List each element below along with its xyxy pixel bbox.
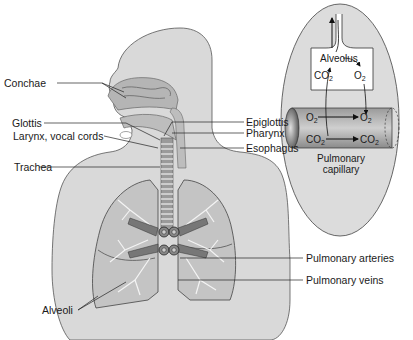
label-pulmonary-capillary: Pulmonary capillary <box>315 153 367 175</box>
label-o2-capillary-in: O2 <box>306 112 318 126</box>
label-alveoli: Alveoli <box>42 304 73 316</box>
label-co2-alveolus: CO2 <box>314 70 333 84</box>
label-alveolus: Alveolus <box>320 53 358 64</box>
label-co2-capillary-out: CO2 <box>360 134 379 148</box>
label-o2-capillary-out: O2 <box>360 112 372 126</box>
gas-exchange-inset <box>281 4 399 236</box>
label-glottis: Glottis <box>12 117 42 129</box>
label-o2-alveolus: O2 <box>354 70 366 84</box>
label-larynx: Larynx, vocal cords <box>13 130 103 142</box>
label-pulmonary-arteries: Pulmonary arteries <box>306 252 394 264</box>
label-co2-capillary-in: CO2 <box>306 134 325 148</box>
trachea <box>161 138 173 230</box>
respiratory-diagram: Conchae Glottis Larynx, vocal cords Trac… <box>0 0 413 340</box>
label-esophagus: Esophagus <box>246 142 299 154</box>
label-pharynx: Pharynx <box>246 127 285 139</box>
label-conchae: Conchae <box>4 77 46 89</box>
label-trachea: Trachea <box>14 161 52 173</box>
label-pulmonary-veins: Pulmonary veins <box>306 274 384 286</box>
